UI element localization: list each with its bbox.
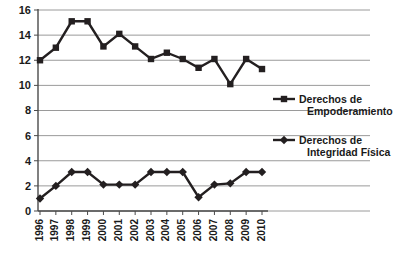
data-point xyxy=(37,57,43,63)
data-point xyxy=(53,44,59,50)
y-axis-tick-labels: 0246810121416 xyxy=(19,4,32,217)
x-tick-label: 2002 xyxy=(129,219,140,242)
chart-legend: Derechos deEmpoderamientoDerechos deInte… xyxy=(273,93,393,159)
x-tick-label: 1997 xyxy=(49,219,60,242)
series-line xyxy=(40,21,262,84)
x-axis-tick-labels: 1996199719981999200020012002200320042005… xyxy=(34,219,267,242)
y-tick-label: 4 xyxy=(25,155,32,167)
legend-marker-diamond xyxy=(280,136,288,144)
data-point xyxy=(115,180,123,188)
x-tick-label: 2008 xyxy=(224,219,235,242)
y-tick-label: 14 xyxy=(19,29,32,41)
x-tick-label: 2005 xyxy=(176,219,187,242)
x-tick-label: 2007 xyxy=(208,219,219,242)
series-integridad-fisica xyxy=(36,168,266,203)
legend-label-line1: Derechos de xyxy=(299,134,362,146)
x-tick-label: 2003 xyxy=(145,219,156,242)
data-point xyxy=(163,168,171,176)
legend-label-line2: Integridad Física xyxy=(307,146,391,158)
data-point xyxy=(195,65,201,71)
data-point xyxy=(243,56,249,62)
x-tick-label: 1999 xyxy=(81,219,92,242)
legend-label-line1: Derechos de xyxy=(299,93,362,105)
data-point xyxy=(164,50,170,56)
data-point xyxy=(259,66,265,72)
chart-container: 0246810121416 19961997199819992000200120… xyxy=(0,0,394,255)
x-tick-label: 2009 xyxy=(240,219,251,242)
y-tick-label: 10 xyxy=(19,79,31,91)
y-tick-label: 16 xyxy=(19,4,31,16)
legend-item[interactable]: Derechos deEmpoderamiento xyxy=(273,93,393,118)
data-point xyxy=(258,168,266,176)
y-tick-label: 8 xyxy=(25,104,31,116)
x-tick-label: 2000 xyxy=(97,219,108,242)
legend-marker-square xyxy=(281,96,287,102)
x-tick-label: 2006 xyxy=(192,219,203,242)
data-point xyxy=(211,56,217,62)
legend-label-line2: Empoderamiento xyxy=(307,105,393,117)
x-tick-label: 2010 xyxy=(256,219,267,242)
legend-item[interactable]: Derechos deIntegridad Física xyxy=(273,134,391,159)
y-tick-label: 12 xyxy=(19,54,31,66)
y-tick-label: 6 xyxy=(25,130,31,142)
x-tick-label: 2001 xyxy=(113,219,124,242)
data-point xyxy=(69,18,75,24)
data-point xyxy=(180,56,186,62)
y-axis xyxy=(34,9,38,211)
data-point xyxy=(227,81,233,87)
x-tick-label: 2004 xyxy=(160,219,171,242)
data-point xyxy=(100,43,106,49)
x-tick-label: 1996 xyxy=(34,219,45,242)
x-axis xyxy=(38,211,268,215)
series-empoderamiento xyxy=(37,18,265,87)
y-tick-label: 0 xyxy=(25,205,31,217)
data-point xyxy=(132,43,138,49)
line-chart: 0246810121416 19961997199819992000200120… xyxy=(0,0,394,255)
data-point xyxy=(148,56,154,62)
y-tick-label: 2 xyxy=(25,180,31,192)
data-point xyxy=(84,18,90,24)
data-point xyxy=(116,31,122,37)
x-tick-label: 1998 xyxy=(65,219,76,242)
